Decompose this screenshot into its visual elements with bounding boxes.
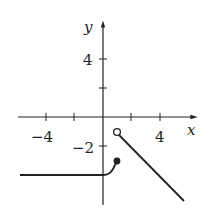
closed-point: [114, 158, 121, 165]
y-tick-label-neg2: −2: [72, 139, 94, 157]
y-tick-label-4: 4: [83, 51, 93, 69]
x-axis-label: x: [187, 121, 196, 139]
graph: y x −4 4 4 −2: [0, 0, 205, 214]
open-point: [114, 129, 121, 136]
x-tick-label-4: 4: [155, 128, 165, 146]
line-right-piece: [119, 135, 184, 201]
y-axis-label: y: [83, 18, 93, 36]
x-tick-label-neg4: −4: [31, 128, 53, 146]
